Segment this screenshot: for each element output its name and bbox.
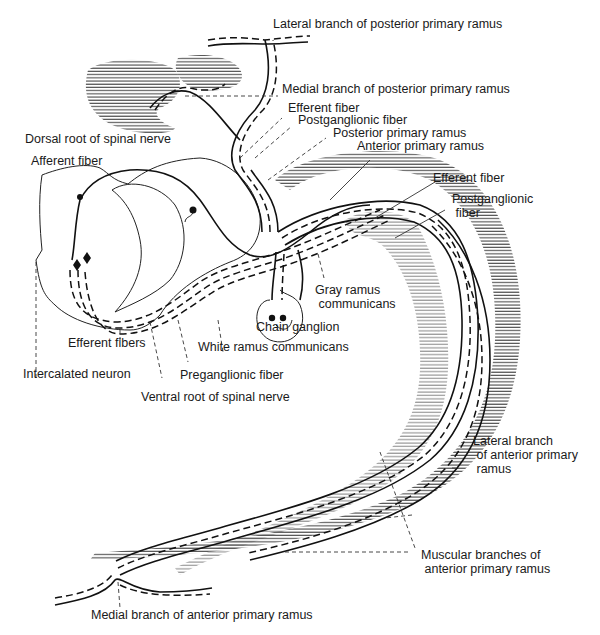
label-gray-ramus-communicans: Gray ramus communicans (315, 283, 396, 311)
label-dorsal-root: Dorsal root of spinal nerve (25, 132, 171, 146)
label-postganglionic-fiber-top: Postganglionic fiber (298, 113, 407, 127)
label-muscular-branches: Muscular branches of anterior primary ra… (421, 548, 550, 576)
label-efferent-fibers: Efferent fibers (68, 336, 146, 350)
label-postganglionic-fiber-right: Postganglionic fiber (452, 192, 533, 220)
posterior-muscle-right (176, 55, 242, 91)
label-efferent-fiber-right: Efferent fiber (433, 171, 504, 185)
label-medial-branch-anterior-ramus: Medial branch of anterior primary ramus (91, 608, 313, 622)
label-anterior-primary-ramus: Anterior primary ramus (357, 139, 484, 153)
dorsal-root (72, 170, 370, 260)
label-lateral-branch-anterior-ramus: Lateral branch of anterior primary ramus (473, 434, 578, 476)
label-white-ramus-communicans: White ramus communicans (198, 340, 349, 354)
spinal-cord-outline (36, 158, 260, 330)
label-lateral-branch-posterior-ramus: Lateral branch of posterior primary ramu… (273, 17, 502, 31)
label-posterior-primary-ramus: Posterior primary ramus (333, 126, 466, 140)
label-preganglionic-fiber: Preganglionic fiber (180, 368, 284, 382)
label-medial-branch-posterior-ramus: Medial branch of posterior primary ramus (282, 82, 510, 96)
label-ventral-root: Ventral root of spinal nerve (141, 390, 290, 404)
label-intercalated-neuron: Intercalated neuron (23, 367, 131, 381)
label-chain-ganglion: Chain ganglion (256, 320, 339, 334)
medial-branch-anterior (55, 575, 212, 605)
label-afferent-fiber: Afferent fiber (31, 154, 102, 168)
ventral-root (70, 210, 390, 334)
